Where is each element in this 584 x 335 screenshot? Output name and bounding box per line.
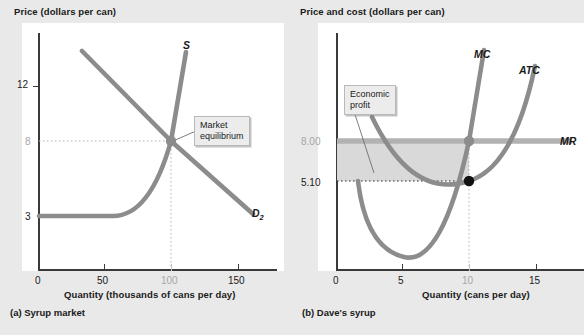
- panel-daves-syrup: Price and cost (dollars per can) 8.00 5.…: [292, 0, 584, 335]
- atc-minimum-marker-b: [464, 176, 474, 186]
- economic-profit-callout: Economic profit: [344, 85, 396, 115]
- curve-label-d2-subscript: 2: [260, 213, 264, 222]
- profit-max-marker-b: [464, 136, 474, 146]
- panel-syrup-market: Price (dollars per can) 12 8 3 0 50 100 …: [0, 0, 292, 335]
- economics-figure: Price (dollars per can) 12 8 3 0 50 100 …: [0, 0, 584, 335]
- curves-svg-b: [292, 0, 584, 335]
- x-axis-title-b: Quantity (cans per day): [422, 289, 530, 300]
- curve-label-d2-text: D: [252, 207, 260, 219]
- panel-caption-b: (b) Dave's syrup: [302, 307, 376, 318]
- curves-svg-a: [0, 0, 292, 335]
- callout-leader-line-a: [173, 131, 196, 141]
- panel-caption-a: (a) Syrup market: [10, 307, 85, 318]
- economic-profit-callout-line1: Economic: [350, 89, 390, 100]
- curve-label-mc: MC: [474, 48, 490, 60]
- equilibrium-marker-a: [166, 136, 176, 146]
- market-equilibrium-callout-line2: equilibrium: [200, 131, 244, 142]
- curve-label-mr: MR: [560, 135, 576, 147]
- market-equilibrium-callout: Market equilibrium: [194, 116, 250, 146]
- x-axis-title-a: Quantity (thousands of cans per day): [64, 289, 235, 300]
- curve-label-s: S: [183, 39, 190, 51]
- curve-label-atc: ATC: [519, 64, 540, 76]
- curve-label-d2: D2: [252, 207, 264, 222]
- economic-profit-callout-line2: profit: [350, 100, 390, 111]
- market-equilibrium-callout-line1: Market: [200, 120, 244, 131]
